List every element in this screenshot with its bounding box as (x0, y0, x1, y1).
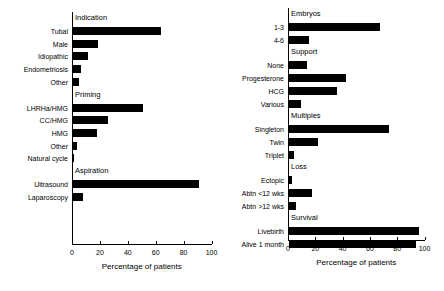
panel-right: 020406080100Percentage of patientsEmbryo… (222, 0, 444, 291)
bar (73, 154, 74, 162)
x-axis-tick-label: 40 (116, 249, 140, 256)
bar (73, 78, 79, 86)
bar (289, 36, 309, 44)
bar (289, 240, 416, 248)
category-label: CC/HMG (0, 117, 68, 125)
x-axis-title: Percentage of patients (278, 258, 435, 267)
group-heading: Survival (291, 214, 318, 222)
category-label: Other (0, 143, 68, 151)
category-label: Ectopic (222, 177, 284, 185)
category-label: LHRHa/HMG (0, 105, 68, 113)
category-label: Tubal (0, 28, 68, 36)
category-label: Laparoscopy (0, 194, 68, 202)
bar (73, 116, 108, 124)
figure-bar-chart-panels: 020406080100Percentage of patientsIndica… (0, 0, 444, 291)
bar (73, 40, 98, 48)
x-axis-tick-label: 60 (144, 249, 168, 256)
category-label: Livebirth (222, 228, 284, 236)
bar (289, 100, 301, 108)
x-axis-tick-label: 100 (200, 249, 224, 256)
bar (73, 27, 161, 35)
category-label: Singleton (222, 126, 284, 134)
bar (289, 151, 294, 159)
category-label: Various (222, 101, 284, 109)
x-axis-tick-label: 0 (60, 249, 84, 256)
bar (289, 125, 389, 133)
category-label: Abtn >12 wks (222, 203, 284, 211)
bar (289, 74, 346, 82)
group-heading: Support (291, 48, 317, 56)
bar (289, 61, 307, 69)
category-label: Twin (222, 139, 284, 147)
category-label: 1-3 (222, 24, 284, 32)
x-axis-tick (212, 241, 213, 244)
x-axis-tick (100, 241, 101, 244)
group-heading: Multiples (291, 112, 321, 120)
category-label: Male (0, 41, 68, 49)
x-axis-tick (184, 241, 185, 244)
x-axis-tick-label: 100 (413, 245, 437, 252)
category-label: HCG (222, 88, 284, 96)
bar (73, 104, 143, 112)
category-label: Ultrasound (0, 181, 68, 189)
x-axis-tick-label: 80 (172, 249, 196, 256)
x-axis-tick-label: 20 (88, 249, 112, 256)
x-axis-tick (156, 241, 157, 244)
bar (289, 87, 337, 95)
x-axis-title: Percentage of patients (62, 262, 222, 271)
category-label: Idiopathic (0, 53, 68, 61)
category-label: Endometriosis (0, 66, 68, 74)
bar (289, 23, 380, 31)
category-label: None (222, 62, 284, 70)
bar (73, 180, 199, 188)
group-heading: Embryos (291, 10, 321, 18)
bar (289, 176, 292, 184)
x-axis-tick (128, 241, 129, 244)
category-label: Triplet (222, 152, 284, 160)
category-label: Natural cycle (0, 155, 68, 163)
bar (73, 65, 81, 73)
category-label: HMG (0, 130, 68, 138)
x-axis-tick (425, 237, 426, 240)
category-label: Other (0, 79, 68, 87)
category-label: 4-6 (222, 37, 284, 45)
group-heading: Indication (75, 14, 107, 22)
bar (73, 142, 77, 150)
group-heading: Loss (291, 163, 307, 171)
category-label: Alive 1 month (222, 241, 284, 249)
category-label: Abtn <12 wks (222, 190, 284, 198)
bar (289, 189, 312, 197)
x-axis-line (72, 244, 212, 245)
bar (289, 138, 318, 146)
bar (73, 193, 83, 201)
x-axis-tick (72, 241, 73, 244)
group-heading: Priming (75, 91, 100, 99)
panel-left: 020406080100Percentage of patientsIndica… (0, 0, 222, 291)
bar (73, 52, 88, 60)
bar (73, 129, 97, 137)
bar (289, 202, 296, 210)
category-label: Progesterone (222, 75, 284, 83)
group-heading: Aspiration (75, 167, 108, 175)
bar (289, 227, 419, 235)
